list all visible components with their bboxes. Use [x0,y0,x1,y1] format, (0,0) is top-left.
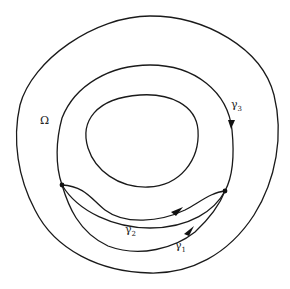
gamma2-label: γ2 [125,223,136,238]
inner-hole-curve [86,95,198,187]
gamma1-curve [62,185,225,251]
right-endpoint-dot [223,189,228,194]
left-endpoint-dot [60,183,65,188]
omega-label: Ω [40,114,49,127]
gamma3-arrow-icon [228,120,235,129]
contour-diagram: Ω γ3 γ2 γ1 [0,0,290,289]
gamma3-label: γ3 [231,98,242,113]
outer-boundary-curve [16,16,278,273]
gamma1-label: γ1 [175,239,186,254]
gamma3-curve [57,65,233,228]
